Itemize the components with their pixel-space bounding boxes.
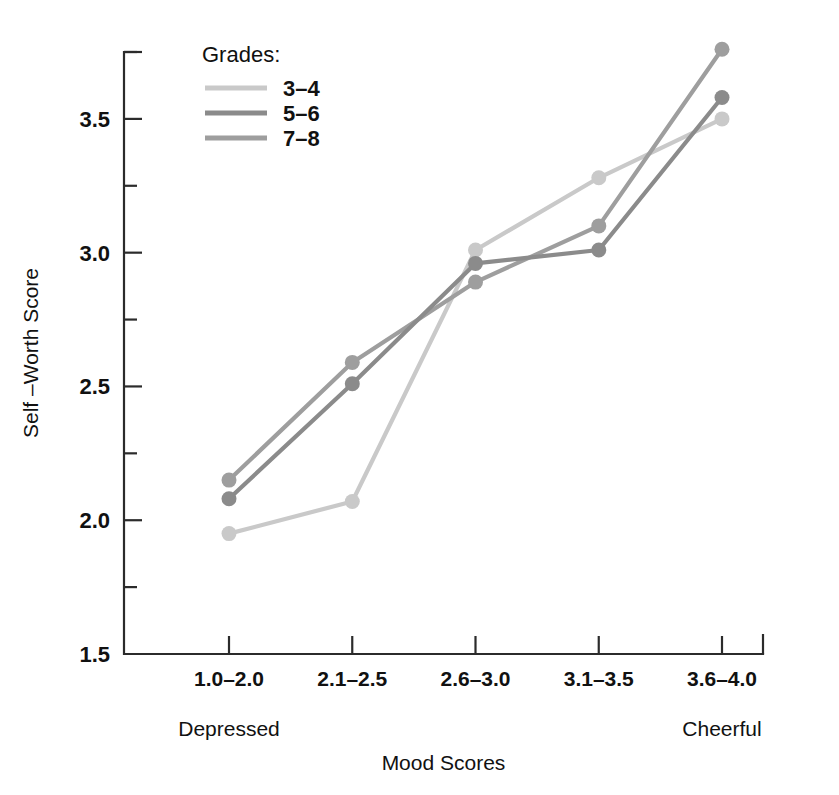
y-axis-title: Self –Worth Score (19, 268, 42, 438)
data-point-marker (222, 473, 237, 488)
y-axis-tick-label: 2.5 (79, 374, 110, 399)
data-point-marker (468, 243, 483, 258)
y-axis (124, 52, 142, 587)
x-axis (229, 636, 722, 654)
data-point-marker (591, 218, 606, 233)
y-axis-tick-label: 1.5 (79, 642, 110, 667)
chart-figure: 1.52.02.53.03.5Self –Worth Score1.0–2.02… (0, 0, 839, 795)
legend-label: 5–6 (283, 101, 320, 126)
data-point-marker (715, 111, 730, 126)
data-point-marker (222, 491, 237, 506)
x-axis-tick-label: 1.0–2.0 (194, 667, 264, 690)
data-point-marker (715, 90, 730, 105)
data-point-marker (715, 42, 730, 57)
x-axis-endpoint-depressed: Depressed (178, 717, 280, 740)
data-point-marker (345, 494, 360, 509)
axis-frame (124, 52, 763, 654)
data-point-marker (591, 170, 606, 185)
legend-label: 3–4 (283, 76, 320, 101)
data-point-marker (591, 243, 606, 258)
line-chart-canvas: 1.52.02.53.03.5Self –Worth Score1.0–2.02… (0, 0, 839, 795)
x-axis-tick-label: 3.1–3.5 (564, 667, 634, 690)
x-axis-title: Mood Scores (382, 751, 506, 774)
x-axis-tick-label: 2.6–3.0 (440, 667, 510, 690)
y-axis-tick-label: 3.0 (79, 241, 110, 266)
data-point-marker (345, 355, 360, 370)
x-axis-tick-label: 2.1–2.5 (317, 667, 387, 690)
legend-title: Grades: (202, 42, 280, 67)
data-point-marker (468, 256, 483, 271)
x-axis-tick-label: 3.6–4.0 (687, 667, 757, 690)
x-axis-endpoint-cheerful: Cheerful (682, 717, 761, 740)
series-line (229, 119, 722, 534)
data-point-marker (468, 275, 483, 290)
series-3-4 (222, 111, 730, 541)
legend-label: 7–8 (283, 126, 320, 151)
y-axis-tick-label: 2.0 (79, 508, 110, 533)
legend (205, 88, 267, 138)
data-point-marker (345, 376, 360, 391)
data-point-marker (222, 526, 237, 541)
y-axis-tick-label: 3.5 (79, 107, 110, 132)
